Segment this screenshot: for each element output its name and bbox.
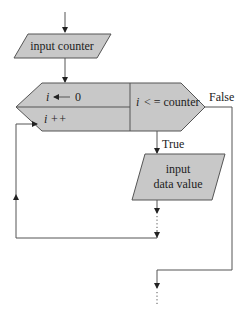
loop-condition-cell: i < = counter [136,95,200,109]
true-label: True [162,137,184,151]
loop-back-arrowhead-icon [13,194,19,200]
flowchart-canvas: input counter i 0 i ++ i < = counter Fal… [0,0,244,315]
loop-node: i 0 i ++ i < = counter [16,83,205,131]
input-data-node: input data value [132,154,225,200]
input-data-line1: input [166,162,191,176]
true-branch: True [157,131,184,153]
input-data-line2: data value [154,177,203,191]
loop-condition-var: i [136,95,139,109]
loop-init-var: i [46,90,49,104]
loop-init-value: 0 [75,90,81,104]
false-label: False [209,90,234,104]
input-counter-label: input counter [30,39,94,53]
loop-back-line [16,124,157,238]
body-end-arrowhead-icon [154,232,160,238]
loop-condition-label: < = counter [141,95,200,109]
loop-increment-label: i ++ [44,112,67,126]
input-counter-node: input counter [14,34,111,58]
